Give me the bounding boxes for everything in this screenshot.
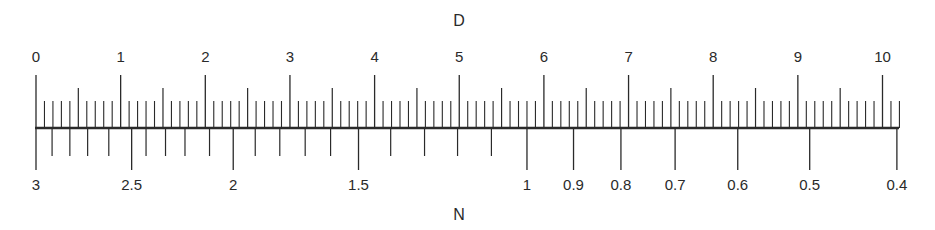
bottom-scale-title: N [453,206,465,223]
top-scale-label: 7 [624,48,632,65]
top-scale-label: 9 [794,48,802,65]
bottom-scale-labels: 32.521.510.90.80.70.60.50.4 [32,176,907,193]
bottom-scale-label: 0.5 [799,176,820,193]
top-scale-label: 0 [32,48,40,65]
top-scale-label: 4 [370,48,378,65]
bottom-scale-label: 1.5 [348,176,369,193]
top-scale-label: 3 [286,48,294,65]
bottom-scale-label: 0.4 [886,176,907,193]
nomogram-scale: D 012345678910 32.521.510.90.80.70.60.50… [0,0,935,230]
bottom-scale-label: 2 [229,176,237,193]
top-scale-label: 10 [874,48,891,65]
bottom-scale-ticks [36,128,897,170]
bottom-scale-label: 2.5 [121,176,142,193]
top-scale-label: 1 [116,48,124,65]
top-scale-ticks [36,75,899,128]
bottom-scale-label: 1 [523,176,531,193]
top-scale-title: D [453,12,465,29]
top-scale-label: 6 [540,48,548,65]
top-scale-label: 2 [201,48,209,65]
top-scale-label: 5 [455,48,463,65]
bottom-scale-label: 3 [32,176,40,193]
top-scale-labels: 012345678910 [32,48,891,65]
bottom-scale-label: 0.7 [665,176,686,193]
bottom-scale-label: 0.6 [727,176,748,193]
top-scale-label: 8 [709,48,717,65]
bottom-scale-label: 0.8 [611,176,632,193]
bottom-scale-label: 0.9 [563,176,584,193]
